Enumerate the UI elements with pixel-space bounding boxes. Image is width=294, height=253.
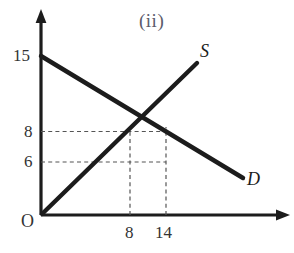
guide-lines-group <box>41 127 166 215</box>
y-tick-label-8: 8 <box>24 123 33 140</box>
origin-label: O <box>21 212 34 230</box>
x-tick-label-8: 8 <box>125 224 134 241</box>
demand-curve-label: D <box>247 170 260 188</box>
y-tick-label-15: 15 <box>13 47 30 64</box>
chart-canvas <box>0 0 294 253</box>
y-axis-arrow-icon <box>36 9 47 23</box>
y-tick-label-6: 6 <box>24 153 33 170</box>
panel-title: (ii) <box>139 11 164 30</box>
x-tick-label-14: 14 <box>155 224 172 241</box>
curves-group <box>41 56 243 214</box>
supply-demand-chart: (ii) 15 8 6 O 8 14 S D <box>0 0 294 253</box>
x-axis-arrow-icon <box>276 210 290 221</box>
supply-curve-label: S <box>200 42 209 60</box>
